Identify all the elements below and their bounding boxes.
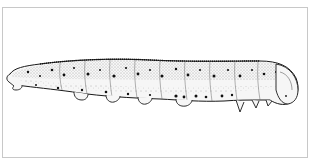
caterpillar-illustration (0, 0, 314, 162)
caterpillar-body (8, 59, 298, 104)
caterpillar-head (276, 64, 298, 104)
